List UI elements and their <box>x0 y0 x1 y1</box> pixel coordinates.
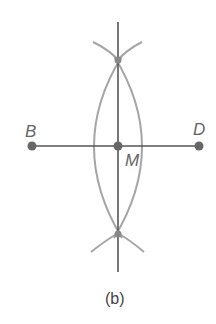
point-top-intersection <box>115 57 122 64</box>
construction-svg <box>0 0 216 324</box>
diagram-canvas: B D M (b) <box>0 0 216 324</box>
label-d: D <box>193 120 205 140</box>
label-m: M <box>125 151 139 171</box>
point-d <box>195 142 204 151</box>
caption: (b) <box>105 290 125 308</box>
point-b <box>28 142 37 151</box>
label-b: B <box>25 122 36 142</box>
point-bottom-intersection <box>115 231 122 238</box>
point-m <box>114 142 123 151</box>
